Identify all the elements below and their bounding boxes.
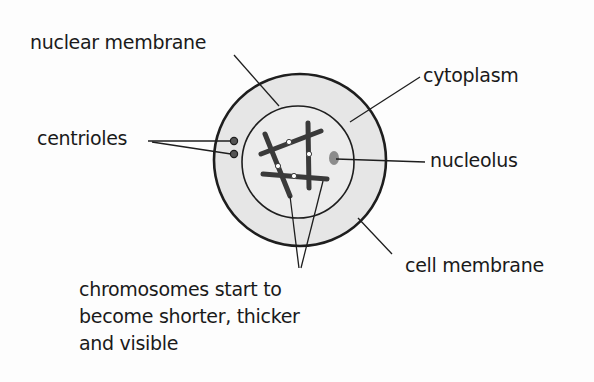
label-nuclear-membrane: nuclear membrane xyxy=(30,33,206,52)
label-nucleolus: nucleolus xyxy=(430,151,518,170)
label-cell-membrane: cell membrane xyxy=(405,256,544,275)
label-chromosomes: chromosomes start to become shorter, thi… xyxy=(79,276,300,357)
nucleolus-shape xyxy=(329,151,339,165)
label-cytoplasm: cytoplasm xyxy=(423,66,518,85)
cell-diagram: nuclear membrane cytoplasm centrioles nu… xyxy=(0,0,594,382)
label-centrioles: centrioles xyxy=(37,129,127,148)
